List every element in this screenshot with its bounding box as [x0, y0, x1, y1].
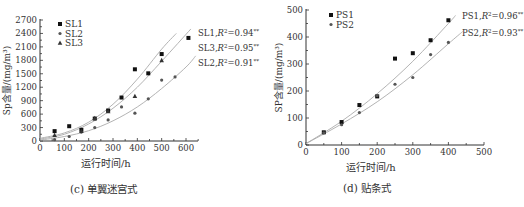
- fit-curve-sl2: [40, 56, 196, 140]
- scatter-plot-c: 0100200300400500600030060090012001500180…: [0, 0, 262, 207]
- x-tick-label: 300: [405, 147, 421, 157]
- x-axis-label-c: 运行时间/h: [81, 155, 131, 170]
- marker-square: [58, 22, 62, 26]
- marker-dot: [393, 83, 396, 86]
- marker-dot: [68, 135, 71, 138]
- fit-curve-ps1: [306, 15, 456, 143]
- marker-square: [160, 52, 164, 56]
- legend: PS1PS2: [329, 10, 354, 30]
- x-tick-label: 200: [81, 143, 97, 153]
- y-tick-label: 1500: [15, 69, 37, 79]
- fit-label-ps2: PS2,R2=0.93**: [462, 28, 523, 39]
- y-tick-label: 900: [21, 96, 37, 106]
- y-tick-label: 300: [287, 59, 303, 69]
- legend-label-ps2: PS2: [336, 20, 354, 30]
- marker-square: [67, 124, 71, 128]
- chart-panel-c: 0100200300400500600030060090012001500180…: [0, 0, 262, 207]
- series-sl1: [53, 36, 191, 133]
- y-tick-label: 2100: [15, 42, 37, 52]
- y-axis-label: Sp含量/(mg/m³): [1, 46, 12, 115]
- fit-curve-sl1: [40, 33, 176, 138]
- marker-dot: [447, 41, 450, 44]
- marker-dot: [173, 75, 176, 78]
- chart-panel-d: 01002003004005000100200300400500SP含量/(mg…: [262, 0, 524, 207]
- y-tick-label: 400: [287, 32, 303, 42]
- legend-label-sl2: SL2: [65, 29, 83, 39]
- marker-dot: [340, 123, 343, 126]
- y-tick-label: 1800: [15, 55, 37, 65]
- marker-triangle: [58, 41, 63, 45]
- marker-dot: [322, 131, 325, 134]
- marker-square: [133, 67, 137, 71]
- x-tick-label: 600: [178, 143, 194, 153]
- marker-dot: [429, 53, 432, 56]
- marker-dot: [411, 76, 414, 79]
- fit-label-sl1: SL1,R2=0.94**: [198, 28, 259, 39]
- legend-label-sl1: SL1: [65, 19, 83, 29]
- x-tick-label: 500: [476, 147, 492, 157]
- x-tick-label: 100: [56, 143, 72, 153]
- caption-c: (c) 单翼迷宫式: [70, 181, 137, 196]
- marker-square: [329, 13, 333, 17]
- y-tick-label: 2400: [15, 28, 37, 38]
- marker-square: [357, 103, 361, 107]
- marker-square: [146, 71, 150, 75]
- x-tick-label: 500: [154, 143, 170, 153]
- scatter-plot-d: 01002003004005000100200300400500SP含量/(mg…: [262, 0, 524, 207]
- series-ps1: [322, 18, 451, 134]
- fit-curve-sl3: [40, 29, 191, 139]
- marker-dot: [358, 111, 361, 114]
- marker-dot: [147, 97, 150, 100]
- marker-square: [53, 129, 57, 133]
- marker-triangle: [133, 94, 138, 98]
- marker-dot: [329, 23, 332, 26]
- y-axis-label: SP含量/(mg/m³): [273, 43, 284, 113]
- x-tick-label: 200: [369, 147, 385, 157]
- marker-square: [393, 57, 397, 61]
- legend: SL1SL2SL3: [58, 19, 83, 48]
- y-tick-label: 300: [21, 123, 37, 133]
- x-tick-label: 400: [129, 143, 145, 153]
- y-tick-label: 1200: [15, 82, 37, 92]
- marker-dot: [376, 94, 379, 97]
- y-tick-label: 0: [298, 140, 303, 150]
- marker-square: [120, 96, 124, 100]
- x-axis-label-d: 运行时间/h: [346, 159, 396, 174]
- marker-dot: [58, 32, 61, 35]
- marker-square: [411, 51, 415, 55]
- marker-dot: [53, 138, 56, 141]
- y-tick-label: 200: [287, 86, 303, 96]
- caption-d: (d) 贴条式: [343, 180, 391, 195]
- legend-label-sl3: SL3: [65, 38, 83, 48]
- y-tick-label: 2700: [15, 15, 37, 25]
- x-tick-label: 400: [440, 147, 456, 157]
- marker-dot: [107, 118, 110, 121]
- marker-dot: [133, 112, 136, 115]
- x-tick-label: 100: [333, 147, 349, 157]
- legend-label-ps1: PS1: [336, 10, 354, 20]
- marker-square: [446, 18, 450, 22]
- x-tick-label: 0: [37, 143, 42, 153]
- marker-square: [429, 38, 433, 42]
- y-tick-label: 500: [287, 5, 303, 15]
- x-tick-label: 300: [105, 143, 121, 153]
- marker-dot: [120, 105, 123, 108]
- marker-square: [186, 36, 190, 40]
- y-tick-label: 600: [21, 109, 37, 119]
- y-tick-label: 100: [287, 113, 303, 123]
- fit-label-sl2: SL2,R2=0.91**: [198, 58, 259, 69]
- fit-label-sl3: SL3,R2=0.95**: [198, 43, 259, 54]
- marker-dot: [160, 78, 163, 81]
- fit-label-ps1: PS1,R2=0.96**: [462, 11, 523, 22]
- marker-dot: [93, 126, 96, 129]
- y-tick-label: 0: [32, 136, 37, 146]
- x-tick-label: 0: [303, 147, 308, 157]
